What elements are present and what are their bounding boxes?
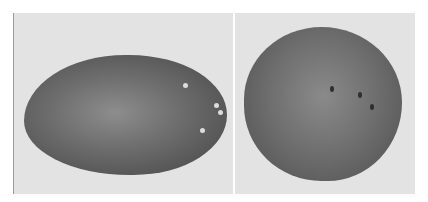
round-potato (244, 27, 402, 181)
sprout (200, 128, 205, 133)
potato-eye (370, 104, 374, 110)
potato-eye (330, 86, 334, 92)
sprout (214, 103, 219, 108)
sprout (218, 110, 223, 115)
potato-eye (358, 92, 362, 98)
sprout (183, 83, 188, 88)
oval-potato (24, 55, 227, 175)
